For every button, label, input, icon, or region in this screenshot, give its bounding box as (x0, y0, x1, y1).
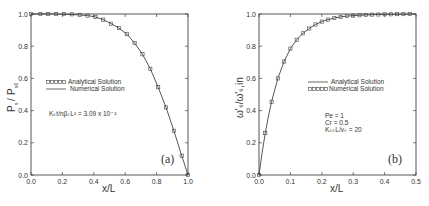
data-point-marker (50, 80, 53, 83)
reaction-parameter-note: KₛₛL/vₛ = 20 (325, 126, 362, 133)
x-tick-label: 0.0 (254, 178, 264, 185)
x-axis-label: x/L (330, 183, 344, 194)
panel-label: (b) (388, 152, 402, 166)
y-tick-label: 0.6 (246, 75, 256, 82)
svg-text:s: s (13, 102, 19, 105)
data-point-marker (46, 80, 49, 83)
x-tick-label: 0.4 (380, 178, 390, 185)
legend-marker-sample (308, 87, 327, 90)
y-axis-label: ω'ₛ/ω'ₛ,in (234, 77, 245, 118)
x-tick-label: 0.8 (152, 178, 162, 185)
x-tick-label: 0.0 (26, 178, 36, 185)
x-tick-label: 0.2 (58, 178, 68, 185)
plot-frame (31, 14, 188, 175)
peclet-number-note: Pe = 1 (325, 112, 344, 119)
y-tick-label: 0.8 (18, 43, 28, 50)
x-tick-label: 1.0 (183, 178, 193, 185)
x-tick-label: 0.4 (89, 178, 99, 185)
y-tick-label: 0.6 (18, 75, 28, 82)
x-tick-label: 0.1 (286, 178, 296, 185)
data-point-marker (316, 87, 319, 90)
y-tick-label: 0.8 (246, 43, 256, 50)
y-tick-label: 1.0 (246, 11, 256, 18)
legend-numerical-label: Numerical Solution (70, 85, 125, 92)
y-tick-label: 0.2 (18, 139, 28, 146)
data-point-marker (308, 87, 311, 90)
svg-text:/: / (6, 98, 17, 101)
panel-a-chart: 0.00.20.40.60.81.00.00.20.40.60.81.0 Ana… (6, 11, 193, 195)
y-tick-label: 1.0 (18, 11, 28, 18)
x-tick-label: 0.2 (317, 178, 327, 185)
data-point-marker (58, 80, 61, 83)
panel-label: (a) (161, 152, 174, 166)
legend: Analytical Solution Numerical Solution (46, 78, 125, 92)
data-point-marker (54, 80, 57, 83)
data-point-marker (312, 87, 315, 90)
plot-frame (259, 14, 416, 175)
legend-marker-sample (46, 80, 65, 83)
numerical-solution-line (31, 14, 188, 175)
legend-numerical-label: Numerical Solution (329, 85, 384, 92)
y-tick-label: 0.4 (18, 107, 28, 114)
svg-text:P: P (6, 88, 17, 95)
y-tick-label: 0.4 (246, 107, 256, 114)
parameter-annotation: Kₛt/nβₛL² = 3.09 x 10⁻² (49, 110, 117, 118)
x-axis-label: x/L (102, 183, 116, 194)
y-tick-label: 0.2 (246, 139, 256, 146)
analytical-solution-line (259, 14, 416, 175)
x-tick-label: 0.6 (120, 178, 130, 185)
courant-number-note: Cr = 0.5 (325, 119, 349, 126)
data-point-marker (62, 80, 65, 83)
x-tick-label: 0.5 (411, 178, 421, 185)
svg-text:s0: s0 (13, 83, 19, 89)
x-tick-label: 0.3 (348, 178, 358, 185)
legend: Analytical Solution Numerical Solution (308, 78, 384, 92)
svg-text:ω'ₛ/ω'ₛ,in: ω'ₛ/ω'ₛ,in (234, 77, 245, 118)
y-axis-label: P s / P s0 (6, 83, 19, 113)
data-point-marker (324, 87, 327, 90)
y-tick-label: 0.0 (18, 172, 28, 179)
panel-b-chart: 0.00.10.20.30.40.50.00.20.40.60.81.0 Ana… (234, 11, 421, 195)
svg-text:P: P (6, 105, 17, 112)
data-point-marker (320, 87, 323, 90)
y-tick-label: 0.0 (246, 172, 256, 179)
figure: 0.00.20.40.60.81.00.00.20.40.60.81.0 Ana… (0, 0, 429, 206)
